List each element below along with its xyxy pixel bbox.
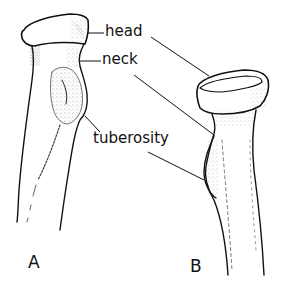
label-neck: neck [102,52,138,67]
leader-tuberosity-b [148,152,204,180]
label-tuberosity: tuberosity [93,131,169,146]
leader-lines [80,33,214,180]
leader-head-b [151,37,209,76]
label-head: head [105,24,142,39]
bone-view-a [17,14,88,230]
bone-view-b [197,70,269,275]
view-label-a: A [28,254,40,271]
view-label-b: B [190,258,202,275]
